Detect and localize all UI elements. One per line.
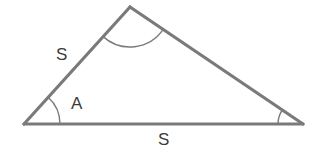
triangle-outline [24,7,303,124]
angle-arc-marks [48,29,282,124]
triangle-diagram-canvas: S S A [0,0,324,153]
angle-arc-top-icon [103,29,163,47]
angle-label-a: A [71,95,82,112]
side-label-left: S [56,46,67,63]
side-label-bottom: S [158,131,169,148]
triangle-edge-right [130,7,303,124]
angle-arc-left-icon [48,97,60,124]
angle-arc-right-icon [278,110,282,124]
